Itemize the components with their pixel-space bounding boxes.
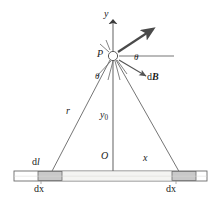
dl-l-part: l: [37, 156, 40, 167]
dx-right-label: dx: [166, 184, 176, 194]
theta-angle-right-label: θ: [134, 53, 138, 62]
y0-subscript: 0: [104, 114, 108, 122]
point-p-marker: [108, 51, 117, 60]
theta-angle-left-label: θ: [95, 72, 99, 81]
current-element-dl-label: dl: [32, 157, 40, 167]
horizontal-distance-x-label: x: [143, 153, 147, 163]
height-y0-label: y0: [100, 110, 108, 122]
physics-diagram-figure: y P θ θ dB r y0 O x dl dx dx: [0, 0, 220, 201]
dB-B-part: B: [152, 71, 159, 82]
dx-left-label: dx: [34, 184, 44, 194]
diagram-canvas: [0, 0, 220, 201]
ray-fan-6: [106, 40, 110, 50]
thick-arrow-upper-right: [118, 29, 153, 52]
dB-vector-label: dB: [147, 72, 159, 82]
radius-lines: [50, 60, 181, 175]
point-p-label: P: [97, 49, 103, 59]
y-axis-label: y: [104, 9, 108, 19]
conductor-bar: [14, 171, 207, 181]
origin-label: O: [101, 151, 108, 161]
radius-r-label: r: [66, 106, 70, 116]
